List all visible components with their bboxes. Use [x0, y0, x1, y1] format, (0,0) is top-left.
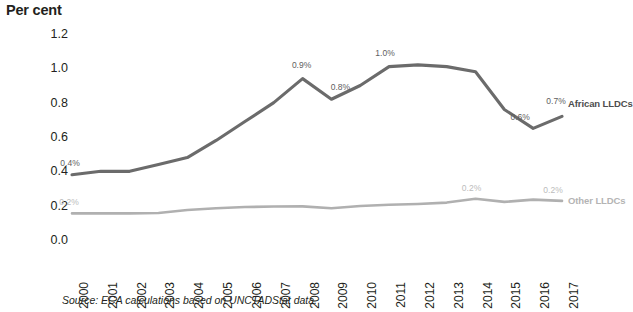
series-legend-label-other: Other LLDCs: [568, 195, 626, 206]
x-axis: 2000200120022003200420052006200720082009…: [72, 242, 562, 286]
source-note: Source: ECA calculations based on UNCTAD…: [62, 294, 317, 306]
series-line-other-lldcs: [72, 199, 562, 214]
plot-svg: [72, 34, 562, 240]
y-axis: 0.00.20.40.60.81.01.2: [26, 0, 68, 312]
data-point-label: 0.9%: [292, 60, 311, 69]
x-axis-tick-label: 2016: [538, 282, 552, 309]
data-point-label: 0.8%: [331, 83, 350, 92]
x-axis-tick-label: 2014: [481, 282, 495, 309]
y-axis-tick-label: 0.6: [26, 131, 68, 144]
data-point-label: 0.2%: [462, 184, 481, 193]
plot-area: [72, 34, 562, 240]
x-axis-tick-label: 2013: [452, 282, 466, 309]
data-point-label: 0.2%: [543, 186, 562, 195]
series-line-african-lldcs: [72, 65, 562, 175]
title-fragment: [110, 0, 530, 2]
y-axis-tick-label: 0.8: [26, 97, 68, 110]
x-axis-tick-label: 2017: [567, 282, 581, 309]
y-axis-tick-label: 1.2: [26, 28, 68, 41]
series-legend-label-african: African LLDCs: [568, 98, 633, 109]
x-axis-tick-label: 2015: [509, 282, 523, 309]
x-axis-tick-label: 2010: [365, 282, 379, 309]
data-point-label: 0.2%: [59, 198, 78, 207]
y-axis-tick-label: 0.0: [26, 234, 68, 247]
data-point-label: 0.4%: [60, 159, 79, 168]
x-axis-tick-label: 2011: [394, 282, 408, 308]
x-axis-tick-label: 2012: [423, 282, 437, 309]
y-axis-tick-label: 1.0: [26, 62, 68, 75]
data-point-label: 0.7%: [546, 97, 565, 106]
data-point-label: 0.6%: [510, 113, 529, 122]
data-point-label: 1.0%: [375, 48, 394, 57]
x-axis-tick-label: 2009: [336, 282, 350, 309]
